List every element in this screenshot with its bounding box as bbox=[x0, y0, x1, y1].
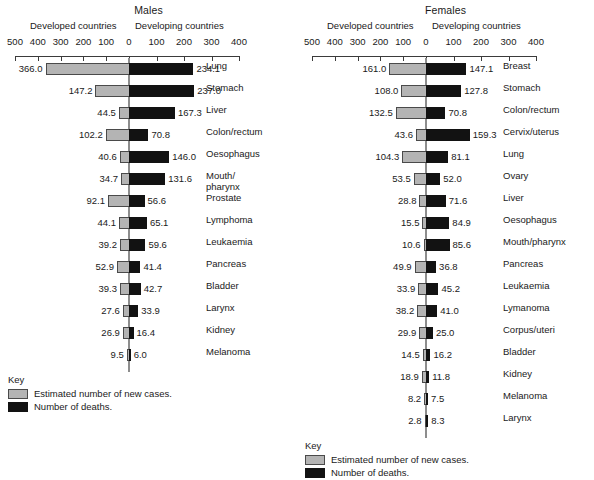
category-label: Pancreas bbox=[206, 259, 246, 270]
value-label-right: 71.6 bbox=[449, 194, 468, 207]
key-swatch-cases-icon bbox=[305, 455, 325, 465]
bar-deaths bbox=[129, 261, 140, 273]
axis-tick-label: 300 bbox=[350, 36, 366, 47]
axis-tick-label: 200 bbox=[75, 36, 91, 47]
chart-key: KeyEstimated number of new cases.Number … bbox=[305, 440, 469, 480]
chart-row: 34.7131.6Mouth/ pharynx bbox=[0, 168, 297, 190]
bar-deaths bbox=[426, 195, 446, 207]
chart-row: 9.56.0Melanoma bbox=[0, 344, 297, 366]
bar-deaths bbox=[426, 349, 430, 361]
category-label: Oesophagus bbox=[206, 149, 260, 160]
value-label-right: 52.0 bbox=[443, 172, 462, 185]
key-item: Estimated number of new cases. bbox=[8, 388, 172, 399]
value-label-left: 44.5 bbox=[97, 106, 116, 119]
category-label: Kidney bbox=[206, 325, 235, 336]
value-label-right: 42.7 bbox=[144, 282, 163, 295]
category-label: Liver bbox=[206, 105, 227, 116]
bar-deaths bbox=[129, 305, 138, 317]
developing-countries-header: Developing countries bbox=[432, 20, 521, 31]
value-label-right: 45.2 bbox=[441, 282, 460, 295]
panel-females: FemalesDeveloped countriesDeveloping cou… bbox=[297, 0, 594, 430]
value-label-left: 104.3 bbox=[375, 150, 399, 163]
axis-tick-label: 100 bbox=[149, 36, 165, 47]
bar-deaths bbox=[426, 283, 438, 295]
chart-row: 40.6146.0Oesophagus bbox=[0, 146, 297, 168]
key-title: Key bbox=[305, 440, 469, 451]
chart-row: 92.156.6Prostate bbox=[0, 190, 297, 212]
axis-tick-label: 300 bbox=[204, 36, 220, 47]
bar-new-cases bbox=[119, 217, 129, 229]
value-label-left: 38.2 bbox=[396, 304, 415, 317]
category-label: Leukaemia bbox=[206, 237, 252, 248]
bar-deaths bbox=[129, 85, 194, 97]
bar-new-cases bbox=[401, 85, 426, 97]
key-swatch-deaths-icon bbox=[8, 402, 28, 412]
value-label-right: 7.5 bbox=[431, 392, 444, 405]
key-item-label: Number of deaths. bbox=[34, 401, 112, 412]
value-label-left: 53.5 bbox=[392, 172, 411, 185]
chart-row: 26.916.4Kidney bbox=[0, 322, 297, 344]
value-label-right: 36.8 bbox=[439, 260, 458, 273]
value-label-right: 85.6 bbox=[453, 238, 472, 251]
value-label-left: 26.9 bbox=[101, 326, 120, 339]
bar-deaths bbox=[426, 261, 436, 273]
axis-tick-label: 500 bbox=[7, 36, 23, 47]
bar-new-cases bbox=[419, 327, 426, 339]
chart-row: 28.871.6Liver bbox=[297, 190, 594, 212]
chart-row: 44.165.1Lymphoma bbox=[0, 212, 297, 234]
category-label: Mouth/pharynx bbox=[503, 237, 566, 248]
value-label-right: 159.3 bbox=[473, 128, 497, 141]
bar-deaths bbox=[129, 239, 145, 251]
value-label-left: 49.9 bbox=[393, 260, 412, 273]
bar-deaths bbox=[129, 349, 131, 361]
category-label: Stomach bbox=[206, 83, 244, 94]
bar-new-cases bbox=[119, 107, 129, 119]
chart-row: 33.945.2Leukaemia bbox=[297, 278, 594, 300]
key-swatch-cases-icon bbox=[8, 389, 28, 399]
chart-row: 8.27.5Melanoma bbox=[297, 388, 594, 410]
bar-new-cases bbox=[402, 151, 426, 163]
value-label-right: 167.3 bbox=[178, 106, 202, 119]
value-label-right: 127.8 bbox=[464, 84, 488, 97]
axis-tick-label: 300 bbox=[501, 36, 517, 47]
chart-row: 38.241.0Lymanoma bbox=[297, 300, 594, 322]
value-label-left: 2.8 bbox=[408, 414, 421, 427]
value-label-right: 56.6 bbox=[148, 194, 167, 207]
value-label-left: 366.0 bbox=[19, 62, 43, 75]
axis-tick-label: 0 bbox=[423, 36, 428, 47]
value-label-left: 9.5 bbox=[111, 348, 124, 361]
value-label-left: 92.1 bbox=[87, 194, 106, 207]
value-label-left: 39.3 bbox=[99, 282, 118, 295]
category-label: Larynx bbox=[503, 413, 532, 424]
bar-deaths bbox=[129, 327, 134, 339]
bar-new-cases bbox=[108, 195, 129, 207]
chart-row: 161.0147.1Breast bbox=[297, 58, 594, 80]
bar-new-cases bbox=[419, 195, 426, 207]
category-label: Stomach bbox=[503, 83, 541, 94]
bar-deaths bbox=[129, 173, 165, 185]
axis-tick-label: 400 bbox=[327, 36, 343, 47]
value-label-right: 6.0 bbox=[134, 348, 147, 361]
chart-row: 18.911.8Kidney bbox=[297, 366, 594, 388]
category-label: Kidney bbox=[503, 369, 532, 380]
axis-tick-label: 200 bbox=[473, 36, 489, 47]
category-label: Larynx bbox=[206, 303, 235, 314]
chart-key: KeyEstimated number of new cases.Number … bbox=[8, 374, 172, 414]
chart-row: 108.0127.8Stomach bbox=[297, 80, 594, 102]
bar-deaths bbox=[426, 85, 461, 97]
value-label-right: 11.8 bbox=[432, 370, 450, 383]
chart-row: 15.584.9Oesophagus bbox=[297, 212, 594, 234]
value-label-left: 10.6 bbox=[402, 238, 421, 251]
value-label-left: 161.0 bbox=[363, 62, 387, 75]
value-label-right: 147.1 bbox=[469, 62, 493, 75]
panel-title: Males bbox=[0, 4, 297, 16]
key-title: Key bbox=[8, 374, 172, 385]
value-label-left: 102.2 bbox=[79, 128, 103, 141]
bar-new-cases bbox=[415, 261, 426, 273]
bar-deaths bbox=[129, 63, 193, 75]
key-item-label: Number of deaths. bbox=[331, 467, 409, 478]
key-item: Estimated number of new cases. bbox=[305, 454, 469, 465]
chart-row: 29.925.0Corpus/uteri bbox=[297, 322, 594, 344]
key-swatch-deaths-icon bbox=[305, 468, 325, 478]
chart-row: 53.552.0Ovary bbox=[297, 168, 594, 190]
